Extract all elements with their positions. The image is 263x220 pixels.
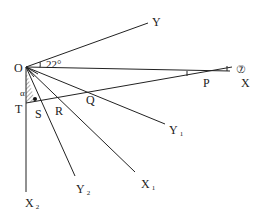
- label-o: O: [14, 61, 23, 75]
- label-t: T: [15, 102, 23, 116]
- label-q: Q: [86, 93, 95, 107]
- label-s: S: [35, 107, 42, 121]
- ray-oy1: [26, 67, 165, 124]
- label-x2: X2: [25, 196, 40, 211]
- angle-label: 22°: [46, 58, 61, 70]
- label-y2: Y2: [76, 182, 91, 197]
- circled-number: ⑦: [236, 63, 246, 75]
- ray-ox1: [26, 67, 135, 172]
- label-y1: Y1: [169, 123, 184, 138]
- label-y: Y: [152, 15, 161, 29]
- ray-oy: [26, 23, 148, 67]
- label-r: R: [55, 104, 63, 118]
- label-x1: X1: [141, 177, 156, 192]
- label-x: X: [241, 76, 250, 90]
- alpha-mark: α: [20, 88, 25, 98]
- geometry-diagram: O 22° α ⑦ Y X Y1 X1 Y2 X2 P Q R S T: [0, 0, 263, 220]
- dot-marker: [33, 97, 37, 101]
- label-p: P: [203, 76, 210, 90]
- transversal-tp: [26, 67, 232, 103]
- ray-oy2: [26, 67, 75, 176]
